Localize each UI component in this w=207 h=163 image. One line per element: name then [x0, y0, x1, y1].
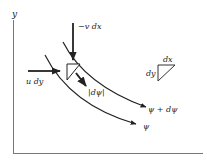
diagram-canvas: y −v dx u dy |dψ| ψ + dψ ψ dx dy	[0, 0, 207, 163]
inner-streamline-label: ψ	[143, 122, 150, 131]
diagram-svg: y −v dx u dy |dψ| ψ + dψ ψ dx dy	[0, 0, 207, 163]
outer-streamline-label: ψ + dψ	[148, 105, 178, 114]
y-axis-label: y	[11, 9, 18, 19]
horizontal-flux-label: u dy	[26, 77, 44, 86]
delta-psi-label: |dψ|	[88, 88, 105, 97]
vertical-flux-label: −v dx	[78, 22, 102, 31]
element-triangle	[67, 64, 80, 80]
legend-dx-label: dx	[163, 55, 173, 64]
net-flow-arrow	[76, 73, 86, 86]
legend-triangle-group: dx dy	[146, 55, 175, 81]
outer-streamline	[63, 42, 146, 107]
legend-triangle	[158, 65, 175, 81]
legend-dy-label: dy	[146, 69, 156, 78]
